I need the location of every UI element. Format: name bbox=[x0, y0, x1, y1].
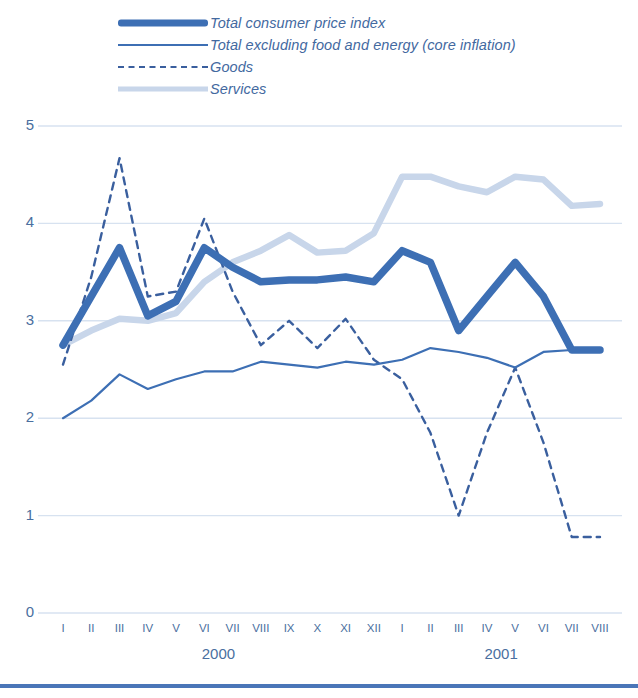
x-tick-label-8: IX bbox=[284, 622, 295, 634]
y-tick-label-1: 1 bbox=[8, 506, 34, 523]
x-tick-label-17: VI bbox=[538, 622, 549, 634]
y-tick-label-0: 0 bbox=[8, 603, 34, 620]
series-line-cpi bbox=[63, 248, 600, 350]
x-tick-label-1: II bbox=[88, 622, 94, 634]
x-axis-year-label-2000: 2000 bbox=[202, 645, 235, 662]
x-tick-label-6: VII bbox=[226, 622, 240, 634]
x-tick-label-4: V bbox=[172, 622, 180, 634]
y-tick-label-4: 4 bbox=[8, 213, 34, 230]
x-tick-label-10: XI bbox=[340, 622, 351, 634]
x-tick-label-16: V bbox=[511, 622, 519, 634]
inflation-chart-figure: Total consumer price index Total excludi… bbox=[0, 0, 638, 698]
x-tick-label-18: VII bbox=[565, 622, 579, 634]
x-tick-label-15: IV bbox=[482, 622, 493, 634]
chart-svg bbox=[0, 0, 638, 698]
y-tick-label-5: 5 bbox=[8, 116, 34, 133]
series-line-core bbox=[63, 348, 600, 418]
series-layer bbox=[63, 158, 600, 537]
x-tick-label-11: XII bbox=[367, 622, 381, 634]
chart-plot-area bbox=[0, 0, 638, 698]
bottom-rule bbox=[0, 684, 638, 688]
x-tick-label-0: I bbox=[61, 622, 64, 634]
gridlines bbox=[38, 126, 622, 613]
x-tick-label-13: II bbox=[427, 622, 433, 634]
x-tick-label-9: X bbox=[314, 622, 322, 634]
x-tick-label-14: III bbox=[454, 622, 464, 634]
y-tick-label-2: 2 bbox=[8, 408, 34, 425]
x-axis-year-label-2001: 2001 bbox=[484, 645, 517, 662]
x-tick-label-12: I bbox=[401, 622, 404, 634]
x-tick-label-7: VIII bbox=[252, 622, 269, 634]
series-line-goods bbox=[63, 158, 600, 537]
x-tick-label-2: III bbox=[115, 622, 125, 634]
x-tick-label-3: IV bbox=[142, 622, 153, 634]
x-tick-label-5: VI bbox=[199, 622, 210, 634]
x-tick-label-19: VIII bbox=[591, 622, 608, 634]
y-tick-label-3: 3 bbox=[8, 311, 34, 328]
series-line-services bbox=[63, 177, 600, 346]
